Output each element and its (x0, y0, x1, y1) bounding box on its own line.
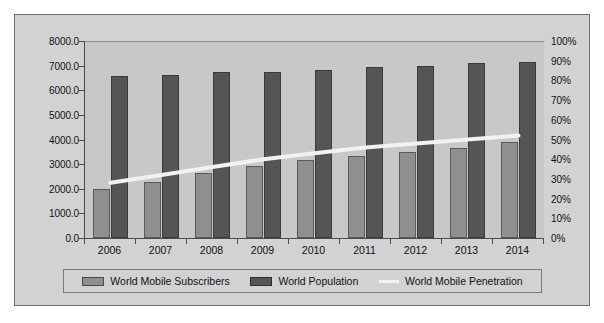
y-axis-left-tick-label: 6000.0 (49, 85, 79, 96)
y-axis-right-tick-label: 60% (551, 114, 571, 125)
x-axis-tick-label: 2009 (251, 244, 274, 256)
x-axis-tick-label: 2006 (98, 244, 121, 256)
legend-item-penetration: World Mobile Penetration (379, 275, 523, 287)
legend-swatch-population-icon (250, 277, 272, 286)
world-mobile-penetration-line (111, 136, 519, 183)
x-axis-tick-label: 2014 (506, 244, 529, 256)
x-axis-tick (84, 239, 85, 244)
y-axis-left-tick-label: 8000.0 (49, 36, 79, 47)
x-axis-tick (543, 239, 544, 244)
x-axis-tick-label: 2012 (404, 244, 427, 256)
x-axis-tick (441, 239, 442, 244)
y-axis-right-tick-label: 70% (551, 95, 571, 106)
y-axis-right-tick-label: 20% (551, 193, 571, 204)
y-axis-right-tick-label: 80% (551, 75, 571, 86)
penetration-line-svg (85, 41, 544, 238)
x-axis-tick (186, 239, 187, 244)
x-axis-tick-label: 2013 (455, 244, 478, 256)
legend-label-subscribers: World Mobile Subscribers (110, 275, 229, 287)
y-axis-left-tick-label: 1000.0 (49, 208, 79, 219)
legend-item-population: World Population (250, 275, 358, 287)
legend-swatch-penetration-icon (379, 280, 399, 283)
y-axis-left-tick-label: 4000.0 (49, 134, 79, 145)
x-axis-tick (390, 239, 391, 244)
x-axis-tick (135, 239, 136, 244)
chart-legend: World Mobile Subscribers World Populatio… (63, 269, 542, 293)
x-axis-tick (237, 239, 238, 244)
legend-label-penetration: World Mobile Penetration (405, 275, 523, 287)
legend-swatch-subscribers-icon (82, 277, 104, 286)
x-axis-tick-label: 2007 (149, 244, 172, 256)
x-axis-tick-label: 2011 (353, 244, 376, 256)
y-axis-right-tick-label: 40% (551, 154, 571, 165)
legend-label-population: World Population (278, 275, 358, 287)
y-axis-left-tick-label: 5000.0 (49, 109, 79, 120)
y-axis-right-tick-label: 90% (551, 55, 571, 66)
chart-frame: 0.01000.02000.03000.04000.05000.06000.07… (14, 14, 590, 306)
x-axis-tick (288, 239, 289, 244)
x-axis-tick (492, 239, 493, 244)
y-axis-right-tick-label: 0% (551, 233, 565, 244)
x-axis-tick (339, 239, 340, 244)
y-axis-right-tick-label: 50% (551, 134, 571, 145)
y-axis-right-tick-label: 10% (551, 213, 571, 224)
y-axis-left-tick-label: 3000.0 (49, 159, 79, 170)
y-axis-left-tick-label: 2000.0 (49, 183, 79, 194)
x-axis-tick-label: 2010 (302, 244, 325, 256)
y-axis-left-tick-label: 0.0 (65, 233, 79, 244)
x-axis-tick-label: 2008 (200, 244, 223, 256)
plot-area (84, 41, 544, 239)
y-axis-left-tick-label: 7000.0 (49, 60, 79, 71)
legend-item-subscribers: World Mobile Subscribers (82, 275, 229, 287)
y-axis-right-tick-label: 30% (551, 173, 571, 184)
y-axis-right-tick-label: 100% (551, 36, 576, 47)
